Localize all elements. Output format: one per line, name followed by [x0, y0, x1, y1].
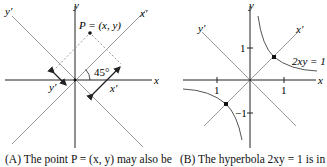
- label-x-prime: x′: [139, 7, 148, 19]
- label-y-prime: y′: [197, 22, 206, 34]
- caption-b: (B) The hyperbola 2xy = 1 is in: [180, 153, 325, 165]
- panel-a: y y′ x′ x P = (x, y) 45° x′ y′: [4, 0, 159, 148]
- point-p: [88, 31, 92, 35]
- label-x-prime-segment: x′: [109, 82, 118, 94]
- caption-a: (A) The point P = (x, y) may also be: [5, 153, 172, 165]
- label-x-prime: x′: [295, 23, 304, 35]
- intersection-point-lower: [224, 102, 228, 106]
- tick-label-x-neg: 1: [214, 84, 220, 96]
- label-y-prime-segment: y′: [48, 81, 57, 93]
- label-curve: 2xy = 1: [292, 55, 326, 67]
- intersection-point-upper: [272, 55, 276, 59]
- tick-label-y-pos: 1: [240, 42, 246, 54]
- tick-label-y-neg: −1: [235, 107, 247, 119]
- label-angle: 45°: [94, 66, 109, 78]
- panel-b: y y′ x′ x 1 −1 1 1 2xy = 1: [183, 0, 326, 148]
- label-y: y: [73, 0, 79, 11]
- angle-arc-45: [86, 69, 90, 80]
- label-y-prime: y′: [4, 5, 13, 17]
- label-point-p: P = (x, y): [78, 19, 121, 32]
- label-y: y: [248, 0, 254, 11]
- rotated-axis-y-prime: [202, 32, 296, 126]
- label-x: x: [317, 74, 323, 86]
- label-x: x: [153, 74, 159, 86]
- origin-dot: [74, 79, 77, 82]
- diagram-canvas: y y′ x′ x P = (x, y) 45° x′ y′ y y′ x′ x…: [0, 0, 327, 167]
- projection-dashed-lines: [53, 33, 121, 71]
- tick-label-x-pos: 1: [281, 84, 287, 96]
- rotated-axis-y-prime: [12, 16, 143, 147]
